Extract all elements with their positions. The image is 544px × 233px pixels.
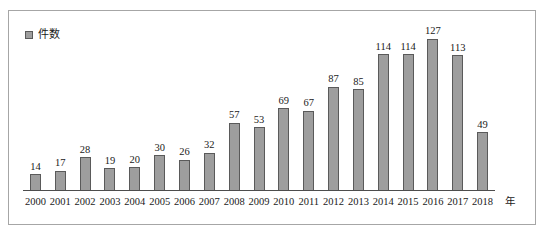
bar-value-label: 53 <box>254 115 265 126</box>
axis-tick-label: 2000 <box>23 194 48 210</box>
bar-group: 19 <box>98 25 123 191</box>
bar-group: 17 <box>48 25 73 191</box>
x-axis-tick-labels: 2000200120022003200420052006200720082009… <box>23 194 495 210</box>
bar-rect <box>278 108 289 191</box>
x-axis-line <box>23 190 495 191</box>
bar-value-label: 19 <box>105 156 116 167</box>
bar-rect <box>104 168 115 191</box>
axis-tick-label: 2018 <box>470 194 495 210</box>
bar-rect <box>378 54 389 191</box>
bar-group: 26 <box>172 25 197 191</box>
bar-value-label: 17 <box>55 158 66 169</box>
x-axis-unit-label: 年 <box>499 194 521 210</box>
bar-value-label: 28 <box>80 145 91 156</box>
axis-tick-label: 2008 <box>222 194 247 210</box>
axis-tick-label: 2002 <box>73 194 98 210</box>
bar-value-label: 85 <box>353 77 364 88</box>
bar-value-label: 30 <box>154 143 165 154</box>
bar-value-label: 49 <box>477 120 488 131</box>
bar-group: 53 <box>247 25 272 191</box>
axis-tick-label: 2010 <box>271 194 296 210</box>
bar-rect <box>55 171 66 191</box>
bar-value-label: 69 <box>279 96 290 107</box>
axis-tick-label: 2004 <box>122 194 147 210</box>
axis-tick-label: 2015 <box>396 194 421 210</box>
bar-value-label: 26 <box>179 147 190 158</box>
bar-group: 20 <box>122 25 147 191</box>
bar-chart-figure: 件数 1417281920302632575369678785114114127… <box>8 10 536 225</box>
bar-rect <box>427 39 438 191</box>
bar-group: 113 <box>445 25 470 191</box>
bar-rect <box>179 160 190 191</box>
bar-group: 57 <box>222 25 247 191</box>
axis-tick-label: 2014 <box>371 194 396 210</box>
axis-tick-label: 2017 <box>445 194 470 210</box>
bar-rect <box>30 174 41 191</box>
bar-group: 69 <box>271 25 296 191</box>
bar-value-label: 14 <box>30 162 41 173</box>
axis-tick-label: 2016 <box>421 194 446 210</box>
bar-group: 49 <box>470 25 495 191</box>
bar-value-label: 87 <box>328 74 339 85</box>
bar-rect <box>452 55 463 191</box>
axis-tick-label: 2011 <box>296 194 321 210</box>
axis-tick-label: 2009 <box>247 194 272 210</box>
bar-rect <box>254 127 265 191</box>
axis-tick-label: 2006 <box>172 194 197 210</box>
bar-value-label: 127 <box>425 26 441 37</box>
bar-group: 114 <box>396 25 421 191</box>
plot-area: 1417281920302632575369678785114114127113… <box>23 25 495 191</box>
bar-rect <box>80 157 91 191</box>
bar-group: 14 <box>23 25 48 191</box>
bar-rect <box>229 123 240 191</box>
bar-group: 32 <box>197 25 222 191</box>
bar-value-label: 32 <box>204 140 215 151</box>
bar-group: 67 <box>296 25 321 191</box>
bar-rect <box>303 111 314 191</box>
bar-rect <box>403 54 414 191</box>
bar-rect <box>204 153 215 191</box>
bar-group: 30 <box>147 25 172 191</box>
axis-tick-label: 2003 <box>98 194 123 210</box>
bar-value-label: 113 <box>450 43 465 54</box>
bar-value-label: 114 <box>376 42 391 53</box>
bar-group: 85 <box>346 25 371 191</box>
bar-group: 127 <box>421 25 446 191</box>
axis-tick-label: 2005 <box>147 194 172 210</box>
bar-group: 114 <box>371 25 396 191</box>
bar-rect <box>154 155 165 191</box>
bar-group: 87 <box>321 25 346 191</box>
bar-rect <box>477 132 488 191</box>
bar-value-label: 20 <box>130 155 141 166</box>
bar-rect <box>328 87 339 191</box>
bar-group: 28 <box>73 25 98 191</box>
bars-container: 1417281920302632575369678785114114127113… <box>23 25 495 191</box>
bar-value-label: 114 <box>400 42 415 53</box>
axis-tick-label: 2001 <box>48 194 73 210</box>
axis-tick-label: 2012 <box>321 194 346 210</box>
axis-tick-label: 2013 <box>346 194 371 210</box>
axis-tick-label: 2007 <box>197 194 222 210</box>
bar-rect <box>129 167 140 191</box>
bar-rect <box>353 89 364 191</box>
bar-value-label: 57 <box>229 110 240 121</box>
bar-value-label: 67 <box>303 98 314 109</box>
